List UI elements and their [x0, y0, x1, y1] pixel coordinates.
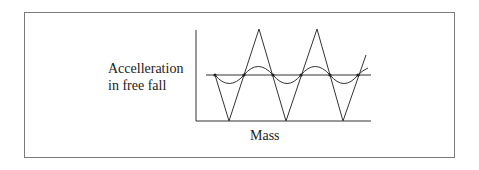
chart-plot — [0, 0, 479, 170]
